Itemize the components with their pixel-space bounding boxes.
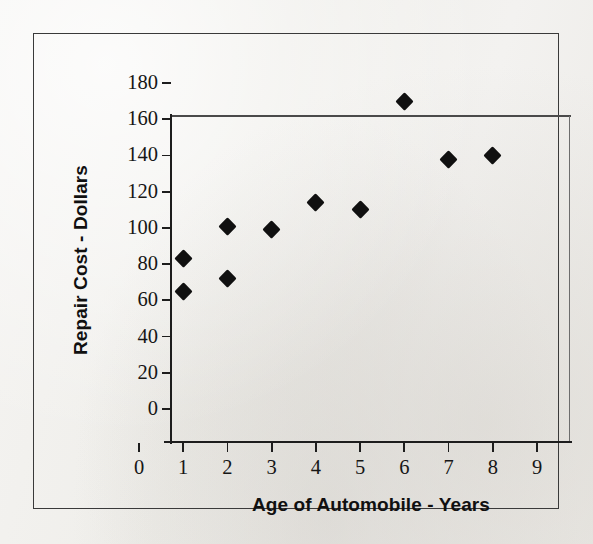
x-axis-tick-label: 1 xyxy=(166,457,200,478)
x-axis-tick-label: 2 xyxy=(210,457,244,478)
y-axis-tick-label-wrap: 80 xyxy=(106,253,158,275)
x-axis-tick-label: 0 xyxy=(122,457,156,478)
x-axis-title: Age of Automobile - Years xyxy=(172,494,570,516)
chart-figure: Repair Cost - Dollars Age of Automobile … xyxy=(0,0,593,544)
x-axis-tick xyxy=(448,443,450,452)
x-axis-tick-label: 4 xyxy=(299,457,333,478)
y-axis-tick xyxy=(162,408,171,410)
y-axis-tick xyxy=(162,336,171,338)
y-axis-tick-label: 20 xyxy=(114,362,158,383)
y-axis-tick-label-wrap: 180 xyxy=(106,72,158,94)
y-axis-tick-label-wrap: 120 xyxy=(106,181,158,203)
x-axis-tick-label: 7 xyxy=(432,457,466,478)
x-axis-tick xyxy=(182,443,184,452)
y-axis-tick-label-wrap: 20 xyxy=(106,362,158,384)
data-point-marker xyxy=(395,92,413,110)
y-axis-tick-label: 140 xyxy=(114,144,158,165)
y-axis-tick-label-wrap: 100 xyxy=(106,217,158,239)
x-axis-tick xyxy=(359,443,361,452)
y-axis-tick-label: 80 xyxy=(114,253,158,274)
chart-outer-frame: Repair Cost - Dollars Age of Automobile … xyxy=(33,33,559,509)
y-axis-tick-label: 100 xyxy=(114,217,158,238)
x-axis-tick-label: 8 xyxy=(476,457,510,478)
x-axis-tick xyxy=(271,443,273,452)
y-axis-tick xyxy=(162,155,171,157)
y-axis-tick-label: 180 xyxy=(114,72,158,93)
y-axis-tick xyxy=(162,118,171,120)
y-axis-tick xyxy=(162,227,171,229)
x-axis-tick-label: 6 xyxy=(387,457,421,478)
y-axis-tick-label-wrap: 40 xyxy=(106,326,158,348)
y-axis-tick xyxy=(162,191,171,193)
y-axis-tick-label: 120 xyxy=(114,181,158,202)
y-axis-tick xyxy=(162,82,171,84)
x-axis-tick xyxy=(492,443,494,452)
y-axis-tick-label-wrap: 140 xyxy=(106,144,158,166)
x-axis-tick xyxy=(403,443,405,452)
y-axis-tick-label: 160 xyxy=(114,108,158,129)
y-axis-tick-label: 40 xyxy=(114,326,158,347)
y-axis-tick-label: 0 xyxy=(114,398,158,419)
y-axis-tick-label: 60 xyxy=(114,289,158,310)
x-axis-tick xyxy=(227,443,229,452)
x-axis-tick xyxy=(536,443,538,452)
y-axis-tick-label-wrap: 0 xyxy=(106,398,158,420)
y-axis-tick xyxy=(162,372,171,374)
y-axis-title: Repair Cost - Dollars xyxy=(70,110,92,410)
y-axis-tick-label-wrap: 160 xyxy=(106,108,158,130)
y-axis-tick xyxy=(162,299,171,301)
x-axis-tick xyxy=(138,443,140,452)
x-axis-tick-label: 5 xyxy=(343,457,377,478)
x-axis-tick-label: 3 xyxy=(255,457,289,478)
x-axis-tick xyxy=(315,443,317,452)
y-axis-tick-label-wrap: 60 xyxy=(106,289,158,311)
y-axis-tick xyxy=(162,263,171,265)
x-axis-tick-label: 9 xyxy=(520,457,554,478)
